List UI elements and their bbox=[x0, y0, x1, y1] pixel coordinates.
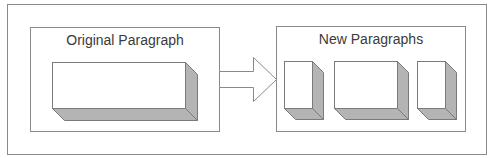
new-paragraph-block-1 bbox=[285, 62, 324, 120]
original-paragraph-title: Original Paragraph bbox=[66, 32, 184, 48]
new-paragraph-block-2 bbox=[335, 62, 409, 120]
new-paragraph-block-3 bbox=[418, 62, 457, 120]
new-paragraphs-title: New Paragraphs bbox=[319, 31, 423, 47]
original-paragraph-block bbox=[53, 63, 198, 121]
diagram-canvas bbox=[0, 0, 493, 158]
